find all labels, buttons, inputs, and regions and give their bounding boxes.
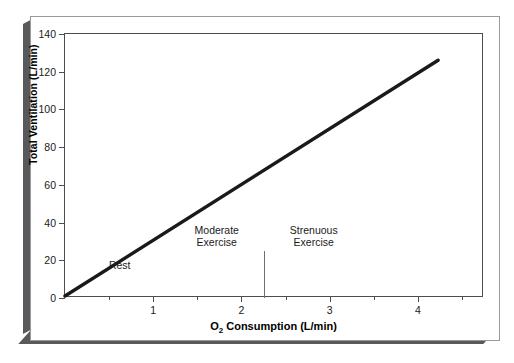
zone-label-line: Exercise <box>195 236 239 249</box>
zone-label-line: Exercise <box>290 236 338 249</box>
x-axis-title: O2 Consumption (L/min) <box>64 320 483 332</box>
data-line-svg <box>65 34 482 296</box>
x-axis-tick-label: 1 <box>150 304 156 316</box>
y-axis-title: Total Ventilation (L/min) <box>27 44 39 165</box>
x-axis-tick-label: 2 <box>238 304 244 316</box>
y-axis-tick <box>59 109 65 110</box>
x-axis-tick <box>418 296 419 302</box>
zone-label-line: Moderate <box>195 224 239 237</box>
y-axis-tick <box>59 34 65 35</box>
zone-annotation: ModerateExercise <box>195 224 239 249</box>
y-axis-tick-label: 40 <box>44 217 56 229</box>
y-axis-tick-label: 140 <box>38 28 56 40</box>
figure-container: Total Ventilation (L/min) 02040608010012… <box>0 0 514 363</box>
y-axis-tick-label: 60 <box>44 179 56 191</box>
x-axis-tick-label: 3 <box>327 304 333 316</box>
x-axis-tick <box>241 296 242 302</box>
y-axis-tick-label: 20 <box>44 254 56 266</box>
y-axis-tick <box>59 147 65 148</box>
zone-annotation: StrenuousExercise <box>290 224 338 249</box>
y-axis-tick <box>59 260 65 261</box>
x-axis-title-base: O <box>210 320 219 332</box>
x-axis-minor-tick <box>109 296 110 300</box>
x-axis-tick <box>330 296 331 302</box>
zone-label-line: Rest <box>109 259 131 272</box>
y-axis-tick <box>59 72 65 73</box>
x-axis-title-rest: Consumption (L/min) <box>223 320 337 332</box>
y-axis-tick-label: 100 <box>38 103 56 115</box>
x-axis-minor-tick <box>462 296 463 300</box>
x-axis-tick-label: 4 <box>415 304 421 316</box>
zone-label-line: Strenuous <box>290 224 338 237</box>
zone-divider <box>264 251 265 298</box>
y-axis-tick-label: 120 <box>38 66 56 78</box>
x-axis-minor-tick <box>374 296 375 300</box>
y-axis-tick-label: 0 <box>50 292 56 304</box>
y-axis-tick-label: 80 <box>44 141 56 153</box>
x-axis-minor-tick <box>197 296 198 300</box>
zone-annotation: Rest <box>109 259 131 272</box>
plot-area: 0204060801001201401234RestModerateExerci… <box>64 33 483 297</box>
x-axis-minor-tick <box>286 296 287 300</box>
y-axis-tick <box>59 185 65 186</box>
x-axis-tick <box>153 296 154 302</box>
y-axis-tick <box>59 298 65 299</box>
x-axis-title-subscript: 2 <box>219 326 223 335</box>
y-axis-tick <box>59 223 65 224</box>
